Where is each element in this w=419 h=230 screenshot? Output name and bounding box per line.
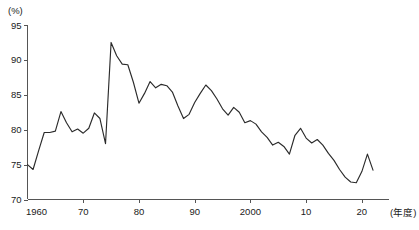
x-tick-label: 70 [78,206,89,217]
x-tick-label: 20 [357,206,368,217]
data-series-group [28,42,374,182]
y-tick-label: 70 [11,194,22,205]
y-tick-label: 90 [11,54,22,65]
x-tick-label: 80 [134,206,145,217]
y-tick-group: 707580859095 [11,20,28,206]
y-axis: 707580859095 [11,20,28,206]
y-tick-label: 85 [11,89,22,100]
x-axis-unit-label: (年度) [390,207,416,218]
x-tick-group: 196070809020001020 [26,200,367,217]
y-tick-label: 75 [11,159,22,170]
x-tick-label: 90 [189,206,200,217]
chart-canvas: 707580859095 196070809020001020 (%) (年度) [0,0,419,230]
y-tick-label: 95 [11,20,22,31]
x-tick-label: 1960 [26,206,47,217]
x-tick-label: 10 [301,206,312,217]
x-tick-label: 2000 [240,206,261,217]
y-tick-label: 80 [11,124,22,135]
data-series-line [28,42,374,182]
y-axis-unit-label: (%) [8,5,23,16]
line-chart-figure: 707580859095 196070809020001020 (%) (年度) [0,0,419,230]
x-axis: 196070809020001020 [26,200,389,217]
